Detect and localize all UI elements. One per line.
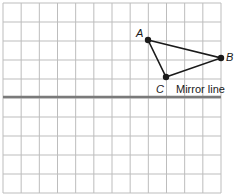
grid-diagram: Mirror line A B C: [0, 0, 235, 195]
vertex-label-a: A: [135, 27, 143, 39]
vertex-point-a: [145, 37, 151, 43]
vertex-label-b: B: [226, 51, 233, 63]
mirror-line-label: Mirror line: [176, 83, 225, 95]
vertex-point-b: [218, 55, 224, 61]
vertex-point-c: [163, 74, 169, 80]
vertex-label-c: C: [156, 83, 164, 95]
